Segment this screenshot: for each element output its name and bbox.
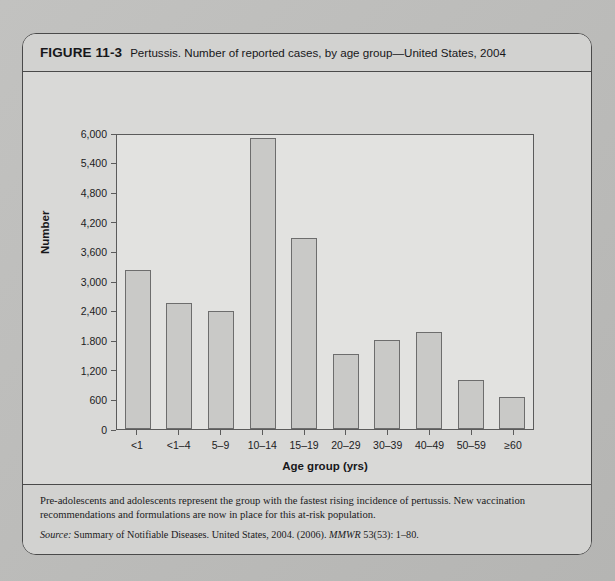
source-citation: 53(53): 1–80.: [363, 529, 418, 540]
x-axis-tick-label: 30–39: [373, 439, 402, 451]
bar-slot: [159, 135, 201, 429]
x-axis-tick: 50–59: [450, 430, 492, 451]
x-axis-tick: ≥60: [492, 430, 534, 451]
x-axis-tick-label: 40–49: [415, 439, 444, 451]
x-axis-title: Age group (yrs): [116, 460, 534, 472]
x-axis-tick: 20–29: [325, 430, 367, 451]
x-axis-tick-label: <1: [131, 439, 143, 451]
y-axis-tick-label: 3,000: [81, 277, 107, 288]
caption-source: Source: Summary of Notifiable Diseases. …: [40, 529, 576, 540]
bar-50–59: [458, 380, 484, 429]
bar-<1: [125, 270, 151, 429]
x-axis-tick-mark: [471, 430, 472, 435]
chart-area: 06001,2001.8002,4003,0003,6004,2004,8005…: [23, 72, 592, 484]
source-label: Source:: [40, 529, 71, 540]
y-axis-tick-label: 0: [101, 425, 107, 436]
plot-area: [116, 134, 534, 430]
x-axis-tick-label: 10–14: [248, 439, 277, 451]
bar-slot: [491, 135, 533, 429]
y-axis-tick-label: 4,200: [81, 218, 107, 229]
y-axis-tick-label: 3,600: [81, 247, 107, 258]
bar-slot: [367, 135, 409, 429]
x-axis-tick: 10–14: [241, 430, 283, 451]
x-axis-tick-mark: [220, 430, 221, 435]
y-axis-tick-label: 6,000: [81, 129, 107, 140]
x-axis-tick-label: 5–9: [212, 439, 230, 451]
x-axis-tick-mark: [513, 430, 514, 435]
x-axis-tick-label: <1–4: [167, 439, 191, 451]
bar-20–29: [333, 354, 359, 429]
x-axis-tick-mark: [178, 430, 179, 435]
y-axis-tick-label: 4,800: [81, 188, 107, 199]
bar-slot: [325, 135, 367, 429]
bar-40–49: [416, 332, 442, 429]
y-axis-tick-label: 2,400: [81, 306, 107, 317]
bar-slot: [117, 135, 159, 429]
y-axis-tick-label: 1.800: [81, 336, 107, 347]
caption-body: Pre-adolescents and adolescents represen…: [40, 494, 576, 522]
x-axis-tick: 30–39: [367, 430, 409, 451]
x-axis-tick-mark: [136, 430, 137, 435]
x-axis-tick-mark: [429, 430, 430, 435]
x-axis-tick: <1–4: [158, 430, 200, 451]
y-axis-tick-label: 1,200: [81, 366, 107, 377]
bar-slot: [242, 135, 284, 429]
x-axis-tick-mark: [304, 430, 305, 435]
figure-header: FIGURE 11-3 Pertussis. Number of reporte…: [23, 34, 591, 72]
x-axis-tick: 15–19: [283, 430, 325, 451]
x-axis-tick-label: 20–29: [331, 439, 360, 451]
bar-slot: [200, 135, 242, 429]
bar-5–9: [208, 311, 234, 429]
source-journal: MMWR: [329, 529, 361, 540]
x-axis-tick-mark: [345, 430, 346, 435]
y-axis-title: Number: [39, 211, 51, 254]
page-background: FIGURE 11-3 Pertussis. Number of reporte…: [0, 0, 615, 581]
x-axis: <1<1–45–910–1415–1920–2930–3940–4950–59≥…: [116, 430, 534, 451]
x-axis-tick: <1: [116, 430, 158, 451]
bar-slot: [408, 135, 450, 429]
bar-slot: [450, 135, 492, 429]
x-axis-tick: 40–49: [409, 430, 451, 451]
x-axis-tick-label: 15–19: [289, 439, 318, 451]
x-axis-tick-label: 50–59: [457, 439, 486, 451]
y-axis-tick-label: 5,400: [81, 158, 107, 169]
bar-<1–4: [166, 303, 192, 429]
bar-series: [117, 135, 533, 429]
x-axis-tick-mark: [387, 430, 388, 435]
caption-block: Pre-adolescents and adolescents represen…: [23, 484, 592, 554]
x-axis-tick: 5–9: [200, 430, 242, 451]
source-text: Summary of Notifiable Diseases. United S…: [74, 529, 327, 540]
y-axis: 06001,2001.8002,4003,0003,6004,2004,8005…: [23, 72, 116, 492]
bar-30–39: [374, 340, 400, 429]
figure-frame: FIGURE 11-3 Pertussis. Number of reporte…: [22, 33, 592, 555]
bar-slot: [283, 135, 325, 429]
x-axis-tick-mark: [262, 430, 263, 435]
y-axis-tick-label: 600: [89, 395, 107, 406]
figure-number: FIGURE 11-3: [40, 45, 122, 60]
bar-10–14: [250, 138, 276, 429]
bar-≥60: [499, 397, 525, 429]
bar-15–19: [291, 238, 317, 429]
figure-title: Pertussis. Number of reported cases, by …: [130, 46, 506, 59]
x-axis-tick-label: ≥60: [504, 439, 521, 451]
